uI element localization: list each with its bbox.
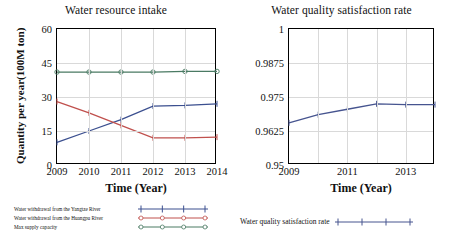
gridline-vertical	[318, 29, 319, 163]
legend-marker-plus-icon	[138, 205, 208, 213]
plot-area-right: 0.950.96250.9750.98751200920112013	[288, 28, 434, 164]
legend-item-label: Water withdrawal from the Yangtze River	[14, 205, 138, 213]
legend-marker-circle-icon	[138, 223, 208, 231]
figure-two-panel-charts: Water resource intake Quantity per year(…	[0, 0, 451, 247]
gridline-vertical	[377, 29, 378, 163]
legend-item: Water withdrawal from the Yangtze River	[14, 205, 208, 213]
x-axis-tick-label: 2011	[111, 166, 132, 177]
x-axis-label-right: Time (Year)	[288, 181, 434, 196]
y-axis-tick-label: 0.975	[260, 92, 284, 103]
x-axis-label-left: Time (Year)	[56, 181, 216, 196]
legend-item-label: Max supply capacity	[14, 223, 138, 231]
gridline-horizontal	[289, 131, 433, 132]
legend-item: Max supply capacity	[14, 223, 208, 231]
chart-title-left: Water resource intake	[0, 4, 232, 16]
legend-item-label: Water withdrawal from the Huangpu River	[14, 214, 138, 222]
y-axis-tick-label: 30	[42, 92, 53, 103]
gridline-horizontal	[57, 63, 215, 64]
x-axis-tick-label: 2012	[143, 166, 164, 177]
series-line	[57, 102, 217, 138]
gridline-horizontal	[57, 131, 215, 132]
x-axis-tick-label: 2013	[395, 166, 416, 177]
gridline-vertical	[121, 29, 122, 163]
gridline-horizontal	[289, 97, 433, 98]
x-axis-tick-label: 2014	[207, 166, 228, 177]
legend-marker-plus-icon	[335, 218, 413, 226]
panel-water-quality-satisfaction-rate: Water quality satisfaction rate 0.950.96…	[232, 0, 451, 247]
x-axis-tick-label: 2011	[337, 166, 358, 177]
y-axis-tick-label: 0.9875	[255, 58, 284, 69]
y-axis-tick-label: 1	[279, 24, 284, 35]
series-line	[57, 71, 217, 72]
x-axis-tick-label: 2010	[79, 166, 100, 177]
x-axis-tick-label: 2013	[175, 166, 196, 177]
x-axis-tick-label: 2009	[279, 166, 300, 177]
y-axis-tick-label: 15	[42, 126, 53, 137]
gridline-horizontal	[57, 97, 215, 98]
chart-title-right: Water quality satisfaction rate	[232, 4, 451, 16]
series-line	[289, 104, 435, 123]
y-axis-tick-label: 45	[42, 58, 53, 69]
legend-item-label: Water quality satisfaction rate	[240, 218, 330, 226]
y-axis-label-left: Quantity per year(100M ton)	[14, 28, 26, 164]
y-axis-tick-label: 60	[42, 24, 53, 35]
legend-item: Water withdrawal from the Huangpu River	[14, 214, 208, 222]
y-axis-tick-label: 0.9625	[255, 126, 284, 137]
legend-marker-circle-icon	[138, 214, 208, 222]
panel-water-resource-intake: Water resource intake Quantity per year(…	[0, 0, 232, 247]
x-axis-tick-label: 2009	[47, 166, 68, 177]
gridline-vertical	[406, 29, 407, 163]
gridline-vertical	[347, 29, 348, 163]
gridline-vertical	[153, 29, 154, 163]
plot-area-left: 015304560200920102011201220132014	[56, 28, 216, 164]
gridline-horizontal	[289, 63, 433, 64]
gridline-vertical	[89, 29, 90, 163]
legend-left: Water withdrawal from the Yangtze RiverW…	[14, 205, 208, 232]
legend-right: Water quality satisfaction rate	[240, 218, 413, 226]
gridline-vertical	[185, 29, 186, 163]
